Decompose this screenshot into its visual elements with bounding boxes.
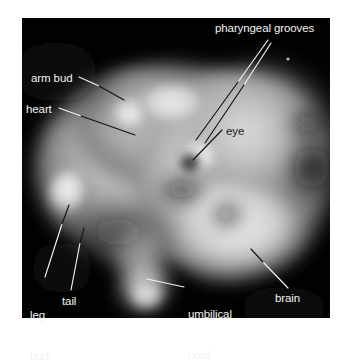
label-leg-bud-line1: leg xyxy=(30,309,49,323)
label-eye: eye xyxy=(226,125,244,138)
embryo-photograph xyxy=(22,18,330,318)
label-umbilical-cord-line2: cord xyxy=(188,349,232,363)
embryo-photo-canvas xyxy=(22,18,330,318)
photo-speck xyxy=(286,57,289,60)
shadow-otic xyxy=(209,200,243,228)
label-arm-bud: arm bud xyxy=(31,72,73,85)
label-leg-bud-line2: bud xyxy=(30,350,49,364)
label-brain: brain xyxy=(275,292,300,305)
eye-pigment-spot xyxy=(181,155,199,172)
label-tail: tail xyxy=(62,295,76,308)
highlight-dorsum xyxy=(138,84,206,128)
label-heart: heart xyxy=(26,103,52,116)
label-umbilical-cord-line1: umbilical xyxy=(188,308,232,322)
label-pharyngeal-grooves: pharyngeal grooves xyxy=(215,22,314,35)
shadow-brain-upper xyxy=(288,106,328,142)
umbilical-cord-highlight xyxy=(130,282,166,314)
label-umbilical-cord: umbilical cord xyxy=(188,281,232,364)
shadow-neck xyxy=(158,176,206,204)
label-leg-bud: leg bud xyxy=(30,282,49,364)
